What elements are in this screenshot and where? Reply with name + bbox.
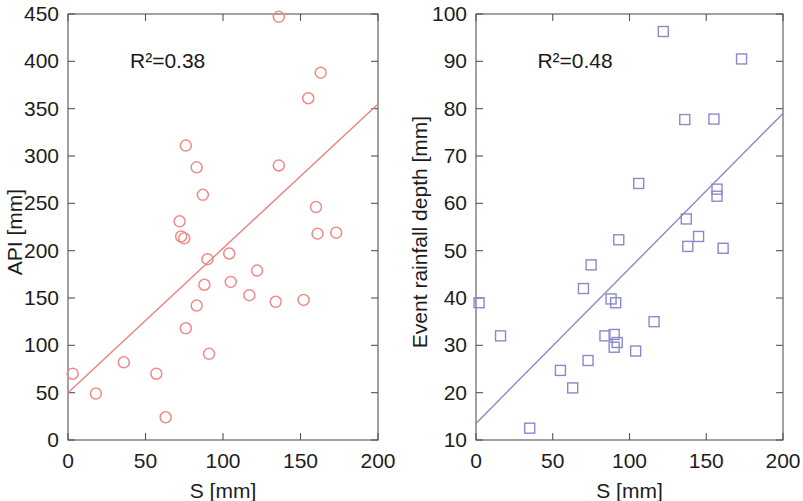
data-point-marker: [273, 11, 284, 22]
y-tick-label: 0: [47, 428, 59, 451]
y-tick-label: 350: [24, 97, 59, 120]
y-tick-label: 60: [444, 191, 467, 214]
plot-frame: [68, 14, 378, 440]
data-point-marker: [67, 368, 78, 379]
data-point-marker: [555, 365, 565, 375]
y-tick-label: 50: [36, 381, 59, 404]
trend-line: [476, 113, 783, 423]
r-squared-annotation: R²=0.48: [537, 49, 612, 72]
data-point-marker: [712, 191, 722, 201]
x-tick-label: 200: [360, 449, 395, 472]
r-squared-annotation: R²=0.38: [130, 49, 205, 72]
data-point-marker: [496, 331, 506, 341]
data-point-marker: [709, 114, 719, 124]
y-tick-label: 100: [432, 2, 467, 25]
data-point-marker: [224, 248, 235, 259]
chart-panel-left: 050100150200250300350400450050100150200R…: [0, 0, 401, 501]
y-tick-label: 70: [444, 144, 467, 167]
data-point-marker: [658, 27, 668, 37]
data-point-marker: [331, 227, 342, 238]
y-tick-label: 150: [24, 286, 59, 309]
left-plot-content: 050100150200250300350400450050100150200R…: [3, 2, 396, 501]
data-point-marker: [718, 243, 728, 253]
x-tick-label: 50: [541, 449, 564, 472]
data-point-marker: [311, 202, 322, 213]
y-tick-label: 100: [24, 333, 59, 356]
x-tick-label: 0: [62, 449, 74, 472]
data-point-marker: [649, 317, 659, 327]
x-axis-label: S [mm]: [596, 479, 663, 501]
data-point-marker: [160, 412, 171, 423]
data-point-marker: [204, 348, 215, 359]
y-tick-label: 80: [444, 97, 467, 120]
x-axis-label: S [mm]: [190, 479, 257, 501]
data-point-marker: [303, 93, 314, 104]
data-point-marker: [634, 178, 644, 188]
y-tick-label: 200: [24, 239, 59, 262]
x-tick-label: 0: [470, 449, 482, 472]
data-point-marker: [180, 140, 191, 151]
scatter-plot-rainfall-vs-s: 102030405060708090100050100150200R²=0.48…: [401, 0, 803, 501]
data-point-marker: [273, 160, 284, 171]
data-point-marker: [683, 241, 693, 251]
chart-panel-right: 102030405060708090100050100150200R²=0.48…: [401, 0, 802, 501]
data-point-marker: [191, 162, 202, 173]
y-tick-label: 50: [444, 239, 467, 262]
right-plot-content: 102030405060708090100050100150200R²=0.48…: [408, 2, 801, 501]
x-tick-label: 100: [205, 449, 240, 472]
data-point-marker: [737, 54, 747, 64]
data-point-marker: [614, 235, 624, 245]
data-point-marker: [312, 228, 323, 239]
y-axis-label: API [mm]: [3, 189, 26, 275]
data-point-marker: [180, 323, 191, 334]
data-point-marker: [525, 423, 535, 433]
data-point-marker: [151, 368, 162, 379]
data-point-marker: [568, 383, 578, 393]
data-point-marker: [252, 265, 263, 276]
y-tick-label: 30: [444, 333, 467, 356]
scatter-plot-api-vs-s: 050100150200250300350400450050100150200R…: [0, 0, 401, 501]
y-tick-label: 20: [444, 381, 467, 404]
data-point-marker: [712, 184, 722, 194]
data-point-marker: [315, 67, 326, 78]
data-point-marker: [270, 296, 281, 307]
data-point-marker: [583, 355, 593, 365]
data-point-marker: [174, 216, 185, 227]
data-point-marker: [298, 294, 309, 305]
data-point-marker: [600, 331, 610, 341]
x-tick-label: 50: [134, 449, 157, 472]
y-tick-label: 40: [444, 286, 467, 309]
data-point-marker: [197, 189, 208, 200]
data-point-marker: [118, 357, 129, 368]
x-tick-label: 150: [689, 449, 724, 472]
data-point-marker: [191, 300, 202, 311]
y-tick-label: 250: [24, 191, 59, 214]
y-tick-label: 450: [24, 2, 59, 25]
data-point-marker: [680, 115, 690, 125]
data-point-marker: [179, 233, 190, 244]
data-point-marker: [586, 260, 596, 270]
y-axis-label: Event rainfall depth [mm]: [408, 116, 431, 348]
data-point-marker: [694, 231, 704, 241]
data-point-marker: [578, 284, 588, 294]
x-tick-label: 100: [612, 449, 647, 472]
y-tick-label: 90: [444, 49, 467, 72]
x-tick-label: 150: [283, 449, 318, 472]
data-point-marker: [631, 346, 641, 356]
y-tick-label: 400: [24, 49, 59, 72]
figure-container: 050100150200250300350400450050100150200R…: [0, 0, 803, 501]
x-tick-label: 200: [765, 449, 800, 472]
data-point-marker: [199, 279, 210, 290]
data-point-marker: [90, 388, 101, 399]
data-point-marker: [225, 276, 236, 287]
trend-line: [68, 104, 378, 393]
y-tick-label: 300: [24, 144, 59, 167]
data-point-marker: [244, 290, 255, 301]
y-tick-label: 10: [444, 428, 467, 451]
